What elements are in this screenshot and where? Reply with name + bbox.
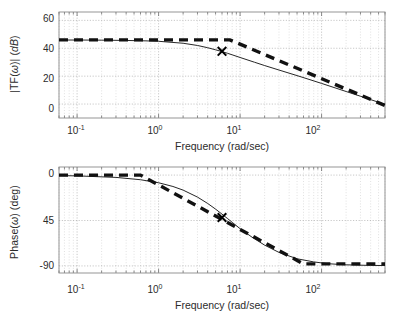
magnitude-exact-curve	[59, 40, 385, 104]
phase-ytick-45: 45	[22, 215, 54, 226]
mag-xtick-1e1-mantissa: 10	[226, 125, 237, 136]
phase-xtick-1e-1-exp: -1	[78, 283, 84, 290]
phase-minor-gridlines	[59, 167, 385, 273]
magnitude-y-axis-label: |TF(ω)| (dB)	[8, 16, 20, 112]
mag-ylabel-prefix: |TF(	[8, 73, 20, 92]
mag-xtick-1e2: 102	[295, 124, 331, 136]
mag-xtick-1e0: 100	[137, 124, 173, 136]
mag-ylabel-end: )	[8, 35, 20, 39]
phase-asymptote-curve	[59, 175, 385, 264]
phase-panel: Phase(ω) (deg) 0 45 -90 10-1 100 101 102…	[0, 158, 403, 317]
mag-xtick-1e1-exp: 1	[238, 124, 242, 131]
phase-y-axis-label: Phase(ω) (deg)	[8, 174, 20, 270]
mag-ylabel-omega: ω	[8, 65, 20, 73]
mag-ytick-0: 0	[22, 103, 54, 114]
phase-ytick-0: 0	[22, 168, 54, 179]
magnitude-horizontal-gridlines	[59, 20, 385, 104]
mag-xtick-1e-1-exp: -1	[78, 124, 84, 131]
phase-xtick-1e2: 102	[295, 283, 331, 295]
mag-xtick-1e2-mantissa: 10	[305, 125, 316, 136]
mag-xtick-1e-1: 10-1	[58, 124, 94, 136]
phase-xtick-1e0-exp: 0	[159, 283, 163, 290]
phase-ytick-90: -90	[22, 260, 54, 271]
phase-xtick-1e-1-mantissa: 10	[67, 284, 78, 295]
phase-horizontal-gridlines	[59, 175, 385, 266]
phase-xtick-1e-1: 10-1	[58, 283, 94, 295]
mag-xtick-1e0-exp: 0	[159, 124, 163, 131]
phase-xtick-1e1-mantissa: 10	[226, 284, 237, 295]
mag-ytick-60: 60	[22, 13, 54, 24]
phase-xtick-1e2-exp: 2	[317, 283, 321, 290]
mag-ylabel-unit: dB	[8, 39, 20, 52]
mag-xtick-1e-1-mantissa: 10	[67, 125, 78, 136]
mag-xtick-1e2-exp: 2	[317, 124, 321, 131]
ph-ylabel-suffix: ) (deg)	[8, 185, 20, 217]
mag-ytick-40: 40	[22, 43, 54, 54]
magnitude-asymptote-curve	[59, 40, 385, 106]
magnitude-minor-gridlines	[59, 12, 385, 118]
mag-ylabel-suffix: )| (	[8, 52, 20, 65]
mag-xtick-1e0-mantissa: 10	[147, 125, 158, 136]
ph-ylabel-omega: ω	[8, 217, 20, 225]
phase-xtick-1e1: 101	[216, 283, 252, 295]
bode-plot-figure: |TF(ω)| (dB) 60 40 20 0 10-1 100 101 102…	[0, 0, 403, 317]
phase-xtick-1e1-exp: 1	[238, 283, 242, 290]
mag-ytick-20: 20	[22, 73, 54, 84]
mag-xtick-1e1: 101	[216, 124, 252, 136]
mag-x-axis-label: Frequency (rad/sec)	[58, 140, 386, 152]
phase-x-axis-label: Frequency (rad/sec)	[58, 299, 386, 311]
phase-xtick-1e2-mantissa: 10	[305, 284, 316, 295]
phase-xtick-1e0: 100	[137, 283, 173, 295]
magnitude-panel: |TF(ω)| (dB) 60 40 20 0 10-1 100 101 102…	[0, 0, 403, 158]
ph-ylabel-prefix: Phase(	[8, 225, 20, 259]
phase-xtick-1e0-mantissa: 10	[147, 284, 158, 295]
